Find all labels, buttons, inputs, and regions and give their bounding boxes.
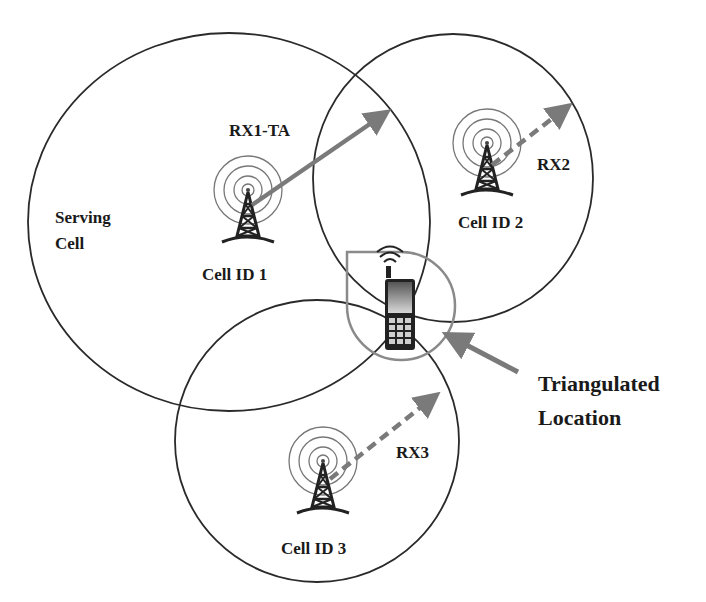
serving-cell-label: Serving Cell (55, 209, 111, 252)
location-pointer-arrow (455, 339, 518, 372)
rx1-ta-label: RX1-TA (229, 122, 290, 139)
cell-2-label: Cell ID 2 (458, 214, 523, 231)
triangulated-label-line2: Location (538, 404, 660, 432)
serving-cell-label-line1: Serving (55, 209, 111, 226)
signal-waves-icon (377, 247, 403, 263)
triangulated-label-line1: Triangulated (538, 370, 660, 398)
cell-tower-icon (289, 427, 357, 513)
cell-2-coverage (313, 34, 593, 322)
rx2-label: RX2 (537, 156, 570, 173)
mobile-phone-icon (377, 247, 415, 351)
cell-tower-icon (214, 156, 282, 242)
cell-1-label: Cell ID 1 (202, 266, 267, 283)
serving-cell-label-line2: Cell (55, 235, 111, 252)
rx3-label: RX3 (396, 444, 429, 461)
triangulated-location-label: Triangulated Location (538, 370, 660, 431)
rx3-arrow (330, 400, 430, 479)
diagram-canvas (0, 0, 706, 602)
cell-3-label: Cell ID 3 (281, 540, 346, 557)
triangulation-diagram: Serving Cell RX1-TA Cell ID 1 RX2 Cell I… (0, 0, 706, 602)
